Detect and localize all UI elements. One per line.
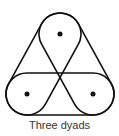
dyad-top-bottom-right [39,13,114,115]
node-dot-bottom-right [91,92,96,97]
node-dot-top [58,32,63,37]
node-dot-bottom-left [25,92,30,97]
dyad-bottom-left-bottom-right [6,73,114,115]
diagram-caption: Three dyads [0,119,119,131]
dyads-diagram [0,0,119,120]
dyad-top-bottom-left [6,13,81,115]
